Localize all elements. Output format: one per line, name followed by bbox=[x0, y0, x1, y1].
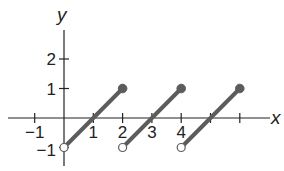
y-tick-label: 1 bbox=[47, 80, 56, 99]
y-tick-label: −1 bbox=[37, 141, 56, 160]
closed-endpoint bbox=[177, 84, 186, 93]
y-tick-label: 2 bbox=[47, 50, 56, 69]
x-tick-label: 1 bbox=[89, 123, 98, 142]
open-endpoint bbox=[60, 144, 68, 152]
closed-endpoint bbox=[118, 84, 127, 93]
open-endpoint bbox=[177, 144, 185, 152]
x-tick-label: 4 bbox=[176, 123, 185, 142]
y-axis-label: y bbox=[55, 4, 68, 25]
x-axis-label: x bbox=[270, 107, 282, 128]
x-tick-label: −1 bbox=[25, 123, 44, 142]
piecewise-function-graph: −1123421−1 x y bbox=[0, 0, 284, 171]
open-endpoint bbox=[119, 144, 127, 152]
x-tick-label: 2 bbox=[118, 123, 127, 142]
x-tick-label: 3 bbox=[147, 123, 156, 142]
closed-endpoint bbox=[236, 84, 245, 93]
